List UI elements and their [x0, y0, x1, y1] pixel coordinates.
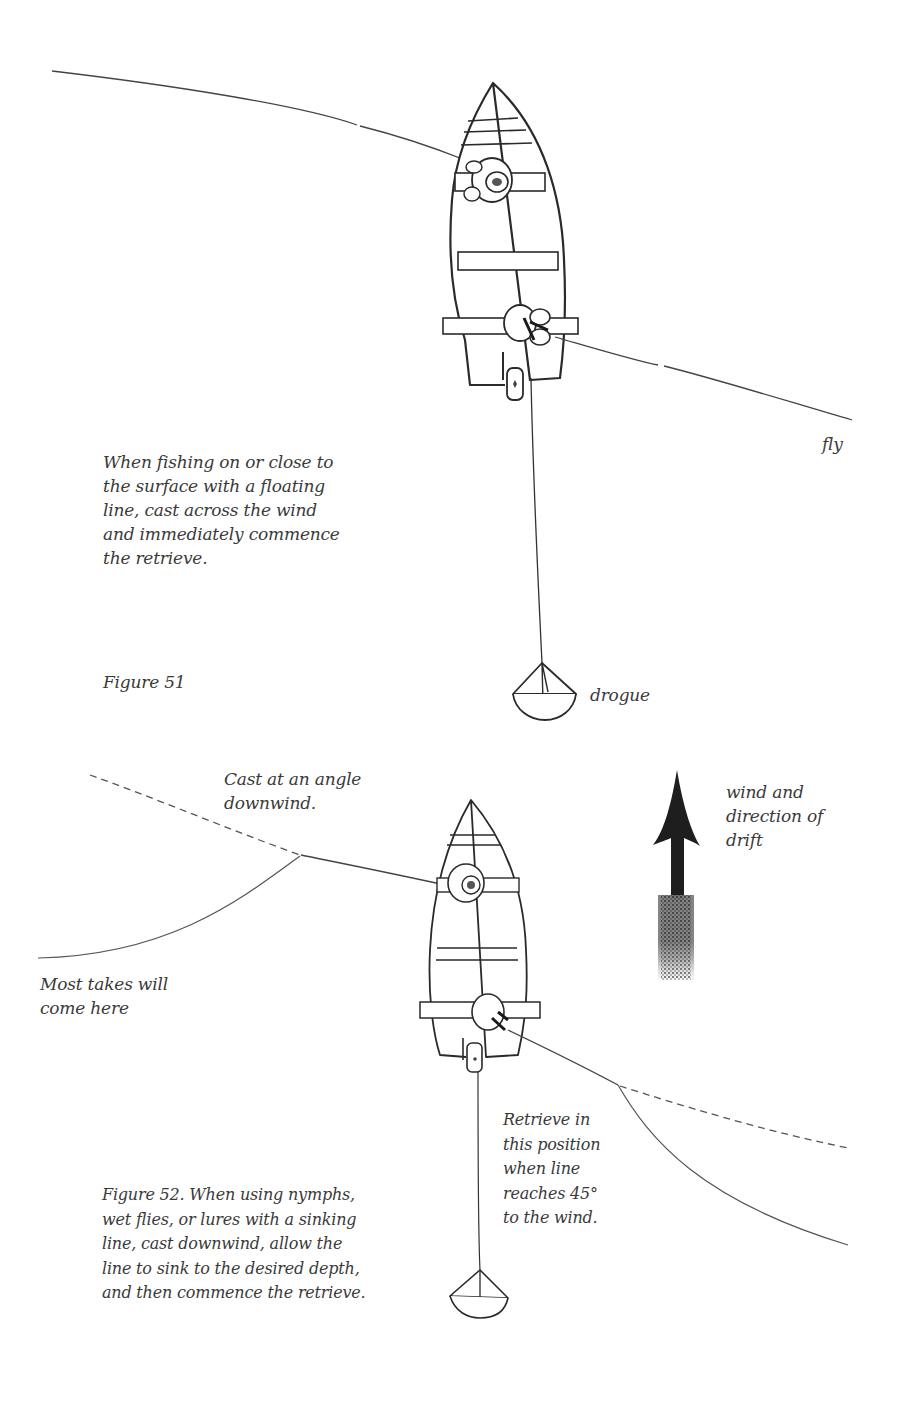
- retrieve-position-label: Retrieve in this position when line reac…: [503, 1108, 600, 1231]
- most-takes-label: Most takes will come here: [40, 972, 168, 1020]
- wind-label: wind and direction of drift: [726, 780, 823, 852]
- drogue-2-icon: [450, 1270, 508, 1318]
- figure-52-caption: Figure 52. When using nymphs, wet flies,…: [102, 1183, 365, 1306]
- figure-51-title: Figure 51: [103, 670, 186, 694]
- sinking-line-right: [618, 1085, 848, 1245]
- drogue-label: drogue: [590, 683, 650, 707]
- wind-arrow-icon: [653, 770, 700, 980]
- fly-label: fly: [822, 432, 843, 456]
- drogue-rope-2: [478, 1072, 480, 1270]
- outboard-motor-icon: [503, 352, 523, 400]
- angler-bow-icon: [464, 158, 512, 202]
- sinking-line-left: [38, 856, 300, 958]
- figure-51: [52, 71, 852, 720]
- drogue-icon: [513, 663, 576, 720]
- fly-line-left: [52, 71, 465, 160]
- drogue-rope: [531, 378, 542, 663]
- angler-bow-2-icon: [448, 864, 484, 902]
- angler-stern-icon: [504, 305, 550, 345]
- figure-51-caption: When fishing on or close to the surface …: [103, 450, 340, 570]
- retrieve-line: [508, 1030, 618, 1085]
- fly-line-right: [555, 337, 852, 420]
- cast-angle-label: Cast at an angle downwind.: [224, 767, 361, 815]
